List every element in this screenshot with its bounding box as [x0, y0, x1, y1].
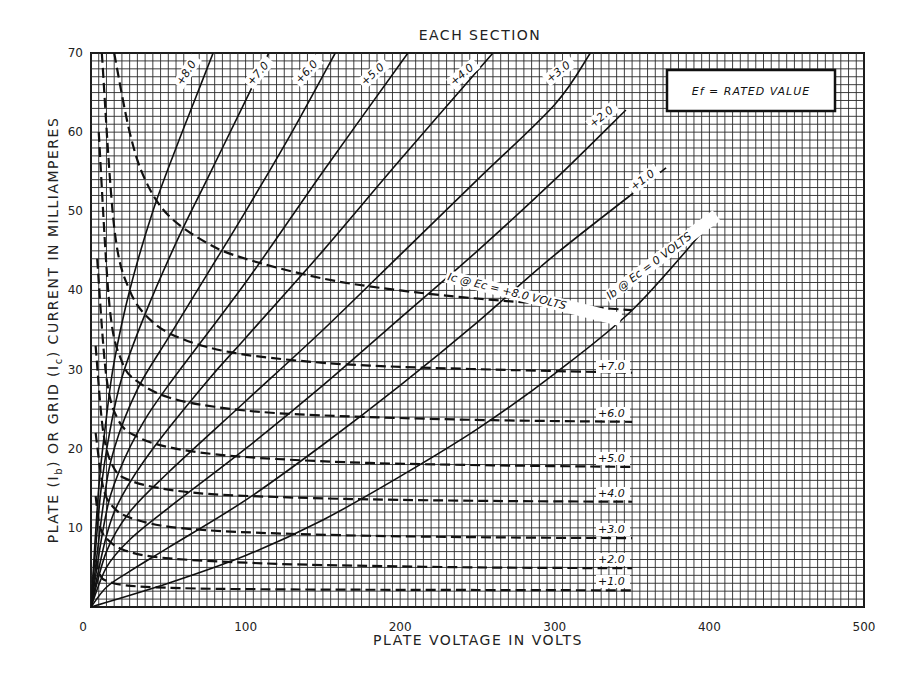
- grid-curve-label: +3.0: [596, 523, 630, 536]
- svg-text:+2.0: +2.0: [598, 553, 625, 566]
- grid-curve-label: +2.0: [596, 553, 630, 566]
- x-tick-label: 100: [234, 620, 257, 634]
- y-axis-title-text: PLATE (I: [45, 475, 61, 544]
- y-tick-label: 20: [68, 442, 83, 456]
- svg-text:+5.0: +5.0: [598, 452, 625, 465]
- tube-characteristics-chart: +8.0+7.0+6.0+5.0+4.0+3.0+2.0+1.0Ib @ Ec …: [0, 0, 915, 682]
- grid-curve-label: +5.0: [596, 452, 630, 465]
- y-tick-label: 50: [68, 204, 83, 218]
- svg-text:+3.0: +3.0: [598, 523, 625, 536]
- y-axis-title-end: ) CURRENT IN MILLIAMPERES: [45, 117, 61, 358]
- svg-text:+7.0: +7.0: [598, 360, 625, 373]
- grid-curve-label: +7.0: [596, 360, 630, 373]
- subscript-c: c: [53, 357, 64, 364]
- svg-text:+4.0: +4.0: [598, 487, 625, 500]
- x-tick-label: 500: [853, 620, 876, 634]
- y-axis-title: PLATE (Ib) OR GRID (Ic) CURRENT IN MILLI…: [45, 117, 64, 544]
- chart-title: EACH SECTION: [419, 27, 542, 43]
- y-tick-label: 60: [68, 125, 83, 139]
- grid-curve-label: +6.0: [596, 407, 630, 420]
- x-axis-title: PLATE VOLTAGE IN VOLTS: [373, 632, 583, 648]
- x-tick-label: 0: [79, 620, 87, 634]
- y-tick-label: 30: [68, 363, 83, 377]
- grid-curve-label: +1.0: [596, 575, 630, 588]
- y-tick-label: 40: [68, 283, 83, 297]
- x-tick-label: 400: [698, 620, 721, 634]
- y-axis-title-mid: ) OR GRID (I: [45, 364, 61, 467]
- svg-text:+1.0: +1.0: [598, 575, 625, 588]
- grid-curve-label: +4.0: [596, 487, 630, 500]
- legend-text: Ef = RATED VALUE: [692, 85, 810, 98]
- legend-box: Ef = RATED VALUE: [667, 70, 835, 111]
- subscript-b: b: [53, 467, 64, 475]
- y-tick-label: 10: [68, 521, 83, 535]
- y-tick-label: 70: [68, 46, 83, 60]
- svg-text:+6.0: +6.0: [598, 407, 625, 420]
